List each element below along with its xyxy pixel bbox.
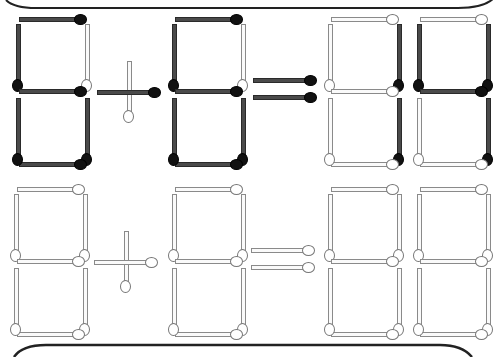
matchstick-body <box>420 332 480 337</box>
matchstick-body <box>253 78 309 83</box>
problem-digit-0-seg-bottom[interactable] <box>19 161 87 167</box>
matchstick-body <box>175 89 235 94</box>
matchstick-body <box>397 194 402 254</box>
problem-digit-0-seg-bottom-left[interactable] <box>15 98 21 166</box>
problem-digit-5-seg-top[interactable] <box>420 16 488 22</box>
answer-template-digit-4-seg-top[interactable] <box>331 186 399 192</box>
problem-digit-5-seg-bottom[interactable] <box>420 161 488 167</box>
problem-digit-2-seg-bottom-right[interactable] <box>240 98 246 166</box>
matchstick-body <box>328 24 333 84</box>
match-head-icon <box>72 329 85 340</box>
answer-template-digit-5-seg-top-left[interactable] <box>416 194 422 262</box>
problem-digit-0-seg-top-left[interactable] <box>15 24 21 92</box>
matchstick-body <box>328 194 333 254</box>
problem-digit-2-seg-top-left[interactable] <box>171 24 177 92</box>
match-head-icon <box>475 329 488 340</box>
matchstick-body <box>172 24 177 84</box>
answer-template-digit-4-seg-middle[interactable] <box>331 258 399 264</box>
match-head-icon <box>230 256 243 267</box>
answer-template-digit-2-seg-bottom-left[interactable] <box>171 268 177 336</box>
answer-template-digit-0-seg-bottom-left[interactable] <box>13 268 19 336</box>
matchstick-body <box>420 259 480 264</box>
answer-template-digit-5-seg-bottom-left[interactable] <box>416 268 422 336</box>
matchstick-body <box>251 265 307 270</box>
answer-template-digit-2-seg-top[interactable] <box>175 186 243 192</box>
problem-digit-2-seg-bottom-left[interactable] <box>171 98 177 166</box>
problem-digit-0-seg-top-right[interactable] <box>84 24 90 92</box>
answer-template-digit-0-seg-top[interactable] <box>17 186 85 192</box>
problem-operator-1-horizontal[interactable] <box>97 89 161 95</box>
match-head-icon <box>168 323 179 336</box>
match-head-icon <box>120 280 131 293</box>
problem-digit-2-seg-top-right[interactable] <box>240 24 246 92</box>
problem-digit-2-seg-middle[interactable] <box>175 88 243 94</box>
matchstick-body <box>14 194 19 254</box>
answer-template-digit-0-seg-middle[interactable] <box>17 258 85 264</box>
problem-digit-4-seg-middle[interactable] <box>331 88 399 94</box>
answer-template-equals-3-top[interactable] <box>251 247 315 253</box>
answer-template-operator-1-horizontal[interactable] <box>94 259 158 265</box>
matchstick-body <box>420 17 480 22</box>
problem-digit-4-seg-top[interactable] <box>331 16 399 22</box>
answer-template-digit-2-seg-top-left[interactable] <box>171 194 177 262</box>
problem-digit-4-seg-bottom[interactable] <box>331 161 399 167</box>
answer-template-digit-4-seg-top-left[interactable] <box>327 194 333 262</box>
matchstick-body <box>16 98 21 158</box>
problem-digit-0-seg-top[interactable] <box>19 16 87 22</box>
problem-digit-4-seg-top-right[interactable] <box>396 24 402 92</box>
answer-template-equals-3-bottom[interactable] <box>251 264 315 270</box>
answer-template-digit-4-seg-bottom-right[interactable] <box>396 268 402 336</box>
matchstick-body <box>175 162 235 167</box>
matchstick-body <box>14 268 19 328</box>
answer-template-digit-2-seg-bottom[interactable] <box>175 331 243 337</box>
matchstick-body <box>17 187 77 192</box>
answer-template-digit-2-seg-middle[interactable] <box>175 258 243 264</box>
answer-template-digit-5-seg-middle[interactable] <box>420 258 488 264</box>
problem-digit-2-seg-top[interactable] <box>175 16 243 22</box>
answer-template-digit-0-seg-bottom-right[interactable] <box>82 268 88 336</box>
answer-template-digit-5-seg-bottom-right[interactable] <box>485 268 491 336</box>
answer-template-digit-5-seg-top[interactable] <box>420 186 488 192</box>
match-head-icon <box>386 159 399 170</box>
matchstick-body <box>241 268 246 328</box>
answer-template-digit-4-seg-bottom[interactable] <box>331 331 399 337</box>
matchstick-body <box>417 194 422 254</box>
problem-digit-2-seg-bottom[interactable] <box>175 161 243 167</box>
match-head-icon <box>302 245 315 256</box>
answer-template-digit-2-seg-bottom-right[interactable] <box>240 268 246 336</box>
answer-template-digit-4-seg-top-right[interactable] <box>396 194 402 262</box>
matchstick-body <box>417 24 422 84</box>
answer-template-digit-4-seg-bottom-left[interactable] <box>327 268 333 336</box>
matchstick-body <box>397 24 402 84</box>
match-head-icon <box>168 153 179 166</box>
matchstick-body <box>241 98 246 158</box>
problem-equals-3-bottom[interactable] <box>253 94 317 100</box>
matchstick-body <box>94 260 150 265</box>
problem-digit-0-seg-bottom-right[interactable] <box>84 98 90 166</box>
problem-digit-5-seg-bottom-left[interactable] <box>416 98 422 166</box>
answer-template-digit-0-seg-top-right[interactable] <box>82 194 88 262</box>
answer-template-digit-2-seg-top-right[interactable] <box>240 194 246 262</box>
match-head-icon <box>386 256 399 267</box>
answer-template-digit-0-seg-top-left[interactable] <box>13 194 19 262</box>
problem-digit-4-seg-bottom-left[interactable] <box>327 98 333 166</box>
problem-digit-5-seg-top-right[interactable] <box>485 24 491 92</box>
matchstick-body <box>331 17 391 22</box>
matchstick-body <box>124 231 129 285</box>
problem-digit-4-seg-top-left[interactable] <box>327 24 333 92</box>
answer-template-digit-0-seg-bottom[interactable] <box>17 331 85 337</box>
matchstick-body <box>172 98 177 158</box>
answer-template-digit-5-seg-bottom[interactable] <box>420 331 488 337</box>
match-head-icon <box>302 262 315 273</box>
matchstick-body <box>19 89 79 94</box>
matchstick-body <box>486 98 491 158</box>
matchstick-body <box>19 17 79 22</box>
problem-digit-4-seg-bottom-right[interactable] <box>396 98 402 166</box>
problem-digit-0-seg-middle[interactable] <box>19 88 87 94</box>
problem-digit-5-seg-bottom-right[interactable] <box>485 98 491 166</box>
problem-digit-5-seg-top-left[interactable] <box>416 24 422 92</box>
problem-digit-5-seg-middle[interactable] <box>420 88 488 94</box>
answer-template-digit-5-seg-top-right[interactable] <box>485 194 491 262</box>
problem-equals-3-top[interactable] <box>253 77 317 83</box>
match-head-icon <box>475 159 488 170</box>
